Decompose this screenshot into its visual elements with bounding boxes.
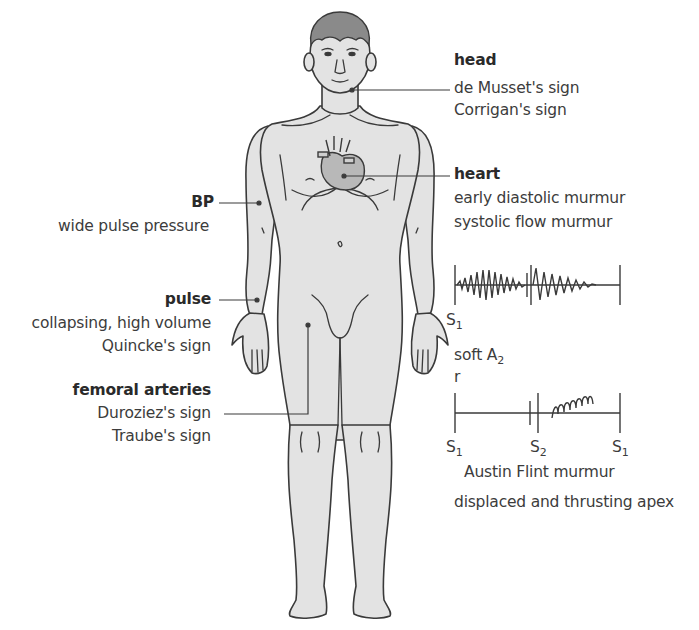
head-title: head xyxy=(454,50,496,71)
pcg1-s1-marker: S1 xyxy=(446,310,462,331)
head-sign-1: de Musset's sign xyxy=(454,78,579,99)
pulse-sign-2: Quincke's sign xyxy=(102,336,211,357)
phonocardiogram-early-diastolic xyxy=(455,265,620,305)
femoral-sign-2: Traube's sign xyxy=(112,426,211,447)
left-leg xyxy=(288,425,338,618)
pcg2-marker-s2: S2 xyxy=(530,437,546,458)
heart-sign-2: systolic flow murmur xyxy=(454,212,612,233)
phonocardiogram-austin-flint xyxy=(455,393,620,433)
pcg1-caption: soft A2 xyxy=(454,345,504,366)
right-leg xyxy=(342,425,392,618)
femoral-sign-1: Duroziez's sign xyxy=(97,403,211,424)
femoral-title: femoral arteries xyxy=(73,380,211,401)
pcg1-caption-extra: r xyxy=(454,370,460,384)
bp-title: BP xyxy=(191,192,214,213)
head-sign-2: Corrigan's sign xyxy=(454,100,567,121)
aortic-regurgitation-diagram: head de Musset's sign Corrigan's sign he… xyxy=(0,0,699,630)
heart-title: heart xyxy=(454,164,500,185)
heart-sign-1: early diastolic murmur xyxy=(454,188,625,209)
pulse-sign-1: collapsing, high volume xyxy=(32,313,211,334)
apex-note: displaced and thrusting apex xyxy=(454,492,674,513)
bp-sign-1: wide pulse pressure xyxy=(58,216,209,237)
pcg2-caption: Austin Flint murmur xyxy=(464,462,615,483)
pulse-title: pulse xyxy=(165,289,211,310)
pcg2-marker-s1-end: S1 xyxy=(612,437,628,458)
pcg2-marker-s1: S1 xyxy=(446,437,462,458)
